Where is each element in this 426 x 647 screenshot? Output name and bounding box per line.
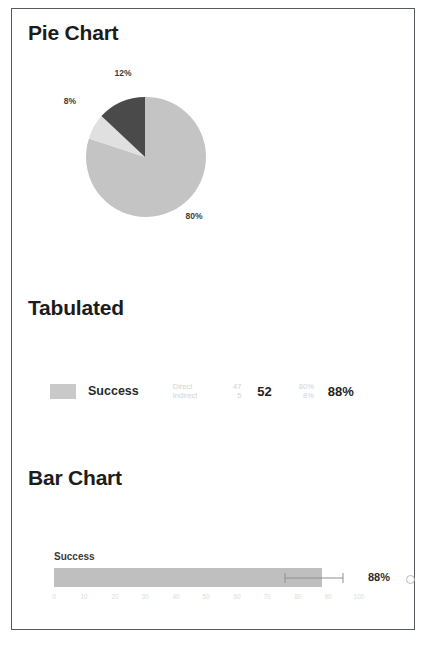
- bar-chart: Success 0 10 20 30 40 50 60 70 80 90 100…: [28, 539, 404, 609]
- breakdown-counts: 47 5: [223, 382, 241, 401]
- pie-label-12: 12%: [114, 68, 131, 78]
- xtick-50: 50: [202, 593, 210, 600]
- xtick-20: 20: [111, 593, 119, 600]
- xtick-30: 30: [141, 593, 149, 600]
- breakdown-percents: 80% 8%: [294, 382, 314, 401]
- pie-label-8: 8%: [64, 96, 77, 106]
- breakdown-count-direct: 47: [223, 382, 241, 391]
- xtick-100: 100: [354, 593, 365, 600]
- pie-chart-svg: 12% 8% 80%: [28, 54, 398, 239]
- xtick-90: 90: [324, 593, 332, 600]
- bar-success[interactable]: [54, 568, 322, 587]
- table-row[interactable]: Success Direct Indirect 47 5 52 80% 8% 8…: [28, 369, 398, 413]
- xtick-70: 70: [263, 593, 271, 600]
- page-title-bar-chart: Bar Chart: [28, 466, 122, 490]
- bar-chart-svg: 0 10 20 30 40 50 60 70 80 90 100: [28, 563, 404, 609]
- xtick-80: 80: [294, 593, 302, 600]
- breakdown-labels: Direct Indirect: [173, 382, 198, 401]
- series-label: Success: [88, 384, 139, 398]
- pie-label-80: 80%: [185, 211, 202, 221]
- breakdown-count-indirect: 5: [223, 391, 241, 400]
- page-title-tabulated: Tabulated: [28, 296, 124, 320]
- bar-series-label: Success: [54, 551, 95, 562]
- breakdown-label-direct: Direct: [173, 382, 198, 391]
- series-color-swatch: [50, 384, 76, 399]
- circle-outline-icon[interactable]: [406, 575, 415, 584]
- bar-value-label: 88%: [368, 571, 390, 583]
- xtick-60: 60: [233, 593, 241, 600]
- breakdown-label-indirect: Indirect: [173, 391, 198, 400]
- xtick-10: 10: [80, 593, 88, 600]
- pie-chart: 12% 8% 80%: [28, 54, 398, 239]
- xtick-40: 40: [172, 593, 180, 600]
- xtick-0: 0: [52, 593, 56, 600]
- breakdown-percent-indirect: 8%: [294, 391, 314, 400]
- report-page: Pie Chart 12% 8% 80% Tabulated Success D…: [11, 8, 415, 630]
- total-percent-value: 88%: [328, 384, 354, 399]
- page-title-pie-chart: Pie Chart: [28, 21, 118, 45]
- total-value: 52: [257, 384, 271, 399]
- breakdown-percent-direct: 80%: [294, 382, 314, 391]
